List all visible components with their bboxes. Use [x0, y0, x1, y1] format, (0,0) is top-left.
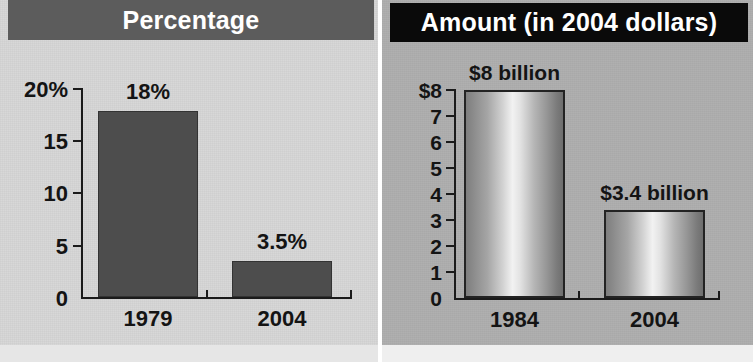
- y-tick-label-15-left: 15: [0, 131, 68, 153]
- x-axis-end-cap-left: [350, 290, 352, 299]
- y-tick-mark-8-right: [446, 89, 455, 91]
- bar-1984-amount: [464, 90, 565, 298]
- y-tick-label-0-left: 0: [0, 288, 68, 310]
- y-tick-mark-3-right: [446, 219, 455, 221]
- y-tick-label-3-right: 3: [382, 210, 442, 231]
- y-tick-mark-7-right: [446, 115, 455, 117]
- left-panel-bottom-strip: [0, 345, 378, 362]
- chart-title-amount: Amount (in 2004 dollars): [390, 3, 748, 42]
- right-panel-bottom-strip: [382, 345, 753, 362]
- y-tick-label-6-right: 6: [382, 132, 442, 153]
- y-tick-label-1-right: 1: [382, 262, 442, 283]
- x-axis-line-left: [81, 297, 352, 299]
- y-tick-mark-5-right: [446, 167, 455, 169]
- x-axis-mid-tick-left: [206, 290, 208, 298]
- x-axis-mid-tick-right: [578, 291, 580, 299]
- y-tick-label-5-left: 5: [0, 236, 68, 258]
- x-axis-line-right: [454, 298, 720, 300]
- chart-title-percentage: Percentage: [8, 0, 374, 40]
- y-tick-mark-6-right: [446, 141, 455, 143]
- y-tick-label-0-right: 0: [382, 288, 442, 309]
- y-tick-label-7-right: 7: [382, 106, 442, 127]
- plot-area-amount: $8 7 6 5 4 3 2 1 0 $8 billion $3.4 billi…: [382, 42, 753, 345]
- bar-1979-percentage: [98, 111, 198, 297]
- y-tick-mark-1-right: [446, 271, 455, 273]
- y-tick-mark-5-left: [73, 245, 82, 247]
- y-tick-label-10-left: 10: [0, 183, 68, 205]
- y-tick-mark-15-left: [73, 140, 82, 142]
- y-tick-mark-4-right: [446, 193, 455, 195]
- y-tick-label-2-right: 2: [382, 236, 442, 257]
- y-tick-label-20-left: 20%: [0, 79, 68, 101]
- x-category-label-2004-percentage: 2004: [232, 308, 332, 330]
- plot-area-percentage: 20% 15 10 5 0 18% 3.5% 1979 2004: [0, 40, 378, 345]
- y-tick-mark-10-left: [73, 192, 82, 194]
- bar-value-label-1979-percentage: 18%: [98, 81, 198, 103]
- y-tick-label-5-right: 5: [382, 158, 442, 179]
- bar-value-label-1984-amount: $8 billion: [444, 62, 585, 83]
- x-category-label-2004-amount: 2004: [604, 309, 705, 331]
- x-axis-end-cap-right: [718, 291, 720, 300]
- bar-value-label-2004-amount: $3.4 billion: [574, 182, 735, 203]
- x-category-label-1984: 1984: [464, 309, 565, 331]
- bar-2004-amount: [604, 210, 705, 298]
- bar-2004-percentage: [232, 261, 332, 297]
- bar-value-label-2004-percentage: 3.5%: [232, 231, 332, 253]
- figure-root: Percentage 20% 15 10 5 0 18% 3.5% 1979 2…: [0, 0, 753, 362]
- y-tick-mark-2-right: [446, 245, 455, 247]
- y-tick-label-4-right: 4: [382, 184, 442, 205]
- y-tick-mark-20-left: [73, 88, 82, 90]
- x-category-label-1979: 1979: [98, 308, 198, 330]
- y-tick-label-8-right: $8: [382, 80, 442, 101]
